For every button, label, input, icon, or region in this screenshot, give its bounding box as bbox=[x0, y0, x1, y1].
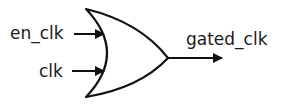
input-label-en-clk: en_clk bbox=[10, 23, 64, 44]
output-label-gated-clk: gated_clk bbox=[186, 29, 268, 50]
or-gate-shape bbox=[86, 9, 168, 97]
input-label-clk: clk bbox=[39, 61, 63, 81]
or-gate-diagram: en_clk clk gated_clk bbox=[0, 0, 281, 107]
diagram-svg: en_clk clk gated_clk bbox=[0, 0, 281, 107]
